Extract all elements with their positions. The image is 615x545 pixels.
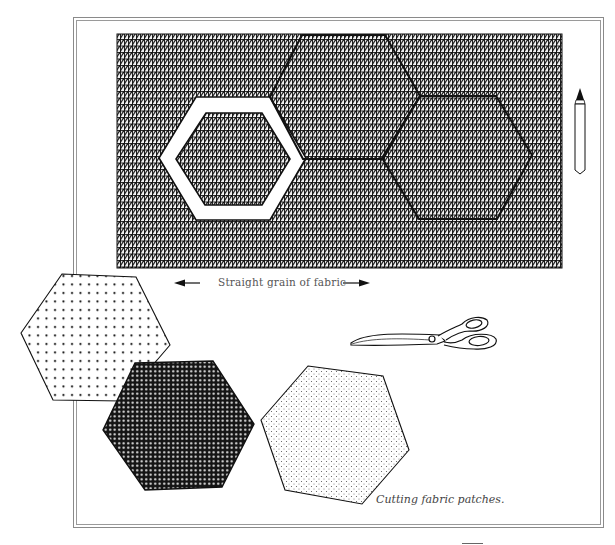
fine-dot-patch <box>261 366 409 504</box>
arrow-right-icon <box>343 280 370 287</box>
pencil-icon <box>575 88 585 174</box>
illustration: Straight grain of fabric Cutting fabric … <box>0 0 615 545</box>
arrow-left-icon <box>174 280 200 287</box>
scissors-icon <box>351 317 496 349</box>
footer-rule <box>462 543 483 544</box>
figure-caption: Cutting fabric patches. <box>376 493 505 506</box>
drawing-layer <box>0 0 615 545</box>
fabric-sheet <box>117 34 562 268</box>
grain-label: Straight grain of fabric <box>218 276 346 288</box>
